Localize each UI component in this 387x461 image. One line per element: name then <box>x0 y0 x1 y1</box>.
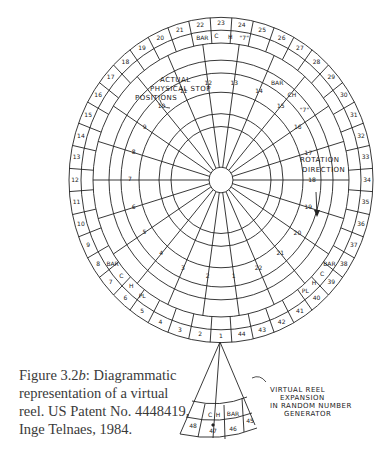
outer-stop-label: 11 <box>73 198 81 205</box>
reel-wheel <box>69 17 373 342</box>
outer-stop-label: 22 <box>196 21 204 28</box>
outer-stop-label: 15 <box>84 111 92 118</box>
outer-division <box>282 37 294 60</box>
outer-stop-label: 39 <box>328 278 336 285</box>
figure-suffix: b <box>79 367 86 383</box>
outer-stop-label: 31 <box>350 111 358 118</box>
symbol-label-left: PL <box>139 292 147 299</box>
outer-stop-label: 8 <box>96 260 100 267</box>
outer-stop-label: 36 <box>357 220 365 227</box>
physical-stop-label: 22 <box>255 264 263 271</box>
virtual-expansion-annotation: GENERATOR <box>284 410 331 418</box>
outer-stop-label: 24 <box>238 21 246 28</box>
outer-stop-label: 19 <box>138 44 146 51</box>
outer-stop-label: 32 <box>357 132 365 139</box>
wedge-symbol-label: BAR <box>227 410 239 417</box>
physical-stop-label: 19 <box>304 203 312 210</box>
wedge-symbol-label: C <box>208 411 212 418</box>
outer-division <box>168 308 176 332</box>
physical-stop-label: 6 <box>132 203 136 210</box>
outer-division <box>99 83 118 98</box>
physical-stop-label: 16 <box>294 123 302 130</box>
rotation-annotation: DIRECTION <box>302 166 345 174</box>
wedge-arc <box>192 397 247 404</box>
physical-stop-label: 5 <box>142 228 146 235</box>
wedge-division <box>198 404 205 437</box>
curved-arrow-icon <box>252 377 266 382</box>
outer-stop-label: 41 <box>296 307 304 314</box>
outer-stop-label: 35 <box>362 198 370 205</box>
mapping-line <box>98 141 125 149</box>
outer-stop-label: 21 <box>176 26 184 33</box>
actual-stops-annotation: PHYSICAL STOP <box>150 85 211 93</box>
outer-division <box>341 228 363 237</box>
outer-stop-label: 23 <box>217 19 225 26</box>
wedge-division <box>224 405 225 439</box>
physical-stop-label: 9 <box>143 123 147 130</box>
symbol-label-left: H <box>129 282 134 289</box>
outer-stop-label: 27 <box>296 44 304 51</box>
actual-stops-annotation: ACTUAL <box>160 76 191 84</box>
wedge-division <box>242 398 244 432</box>
actual-stops-annotation: POSITIONS <box>135 94 177 102</box>
mapping-line <box>113 238 137 254</box>
physical-stop-label: 10 <box>158 102 166 109</box>
mapping-line <box>113 106 137 122</box>
virtual-expansion-annotation: EXPANSION <box>280 394 325 402</box>
outer-division <box>148 37 160 60</box>
physical-stop-label: 20 <box>294 229 302 236</box>
outer-stop-label: 16 <box>94 91 102 98</box>
mapping-line <box>317 141 344 149</box>
outer-stop-label: 10 <box>77 220 85 227</box>
outer-stop-label: 7 <box>109 278 113 285</box>
outer-division <box>266 28 274 52</box>
physical-stop-label: 14 <box>255 87 263 94</box>
figure-caption: Figure 3.2b: Diagrammatic representation… <box>19 366 194 438</box>
inner-spoke <box>156 99 214 170</box>
wedge-stop-label: 46 <box>229 425 237 432</box>
physical-stop-label: 2 <box>206 272 210 279</box>
outer-division <box>298 50 312 71</box>
outer-stop-label: 25 <box>258 26 266 33</box>
physical-stop-label: 8 <box>132 148 136 155</box>
symbol-label-left: C <box>119 272 123 279</box>
symbol-label-right: H <box>312 279 317 286</box>
outer-stop-label: 29 <box>328 73 336 80</box>
physical-stop-label: 3 <box>181 264 185 271</box>
outer-stop-label: 34 <box>363 176 371 183</box>
outer-stop-label: 40 <box>313 294 321 301</box>
figure-label: Figure 3.2 <box>19 367 79 383</box>
symbol-label-right: BAR <box>323 260 335 267</box>
outer-stop-label: 5 <box>140 307 144 314</box>
outer-division <box>79 228 101 237</box>
symbol-label-top: C <box>214 32 218 39</box>
physical-stop-label: 21 <box>277 249 285 256</box>
wedge-stop-label: 47 <box>209 427 217 434</box>
physical-stop-label: 17 <box>305 149 313 156</box>
outer-stop-label: 37 <box>350 241 358 248</box>
outer-stop-label: 1 <box>219 332 223 339</box>
hub-circle <box>209 167 233 193</box>
pointer-dot <box>212 424 214 426</box>
wedge-symbol-label: H <box>216 411 221 418</box>
physical-stop-label: 18 <box>308 176 316 183</box>
mapping-line <box>305 238 329 254</box>
symbol-label-top: H <box>228 33 233 40</box>
outer-stop-label: 14 <box>77 132 85 139</box>
symbol-label-right: PL <box>302 287 310 294</box>
symbol-label-left: BAR <box>106 260 118 267</box>
mapping-line <box>317 210 344 218</box>
symbol-label-top: "7" <box>240 34 250 41</box>
outer-stop-label: 13 <box>73 153 81 160</box>
symbol-label-right: C <box>320 270 324 277</box>
rotation-annotation: ROTATION <box>300 156 339 164</box>
virtual-expansion-annotation: VIRTUAL REEL <box>270 386 325 394</box>
outer-division <box>168 28 176 52</box>
wedge-stop-label: 45 <box>246 417 254 424</box>
outer-division <box>266 308 274 332</box>
outer-stop-label: 38 <box>340 260 348 267</box>
outer-stop-label: 20 <box>157 34 165 41</box>
inner-spoke <box>223 74 236 167</box>
outer-stop-label: 42 <box>278 318 286 325</box>
outer-stop-label: 6 <box>123 294 127 301</box>
